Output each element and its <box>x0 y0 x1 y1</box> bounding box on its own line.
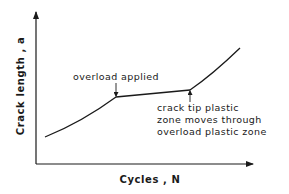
x-axis-label: Cycles , N <box>119 174 180 185</box>
overload-label: overload applied <box>73 71 159 82</box>
plastic-zone-line-2: zone moves through <box>157 114 262 125</box>
plastic-zone-line-1: crack tip plastic <box>157 102 239 113</box>
y-axis-label: Crack length , a <box>15 37 26 136</box>
crack-growth-diagram: overload applied crack tip plastic zone … <box>0 0 289 194</box>
plastic-zone-line-3: overload plastic zone <box>157 126 267 137</box>
